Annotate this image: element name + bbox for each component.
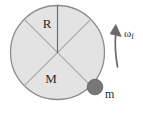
radius-label: R — [43, 16, 52, 31]
physics-diagram-figure: R M m ωf — [0, 0, 143, 113]
rotation-direction-arrow — [110, 25, 121, 68]
rotation-arrow-head — [110, 25, 121, 37]
point-mass-marker — [87, 79, 103, 95]
point-mass-label: m — [105, 87, 115, 101]
disk-mass-label: M — [45, 71, 57, 86]
angular-velocity-label: ωf — [124, 27, 134, 41]
omega-symbol: ω — [124, 27, 131, 39]
omega-subscript: f — [131, 32, 134, 41]
diagram-canvas: R M m ωf — [0, 0, 143, 113]
rotation-arrow-shaft — [115, 36, 117, 68]
